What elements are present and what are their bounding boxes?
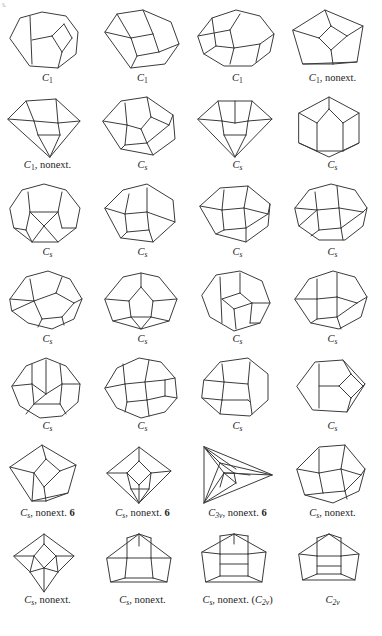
symmetry-group-subscript: s bbox=[50, 424, 53, 433]
inner-edge-9 bbox=[113, 317, 131, 321]
polyhedron-svg-25 bbox=[0, 526, 95, 594]
figure-cell-12: Cs bbox=[285, 178, 380, 265]
figure-caption-20: Cs bbox=[285, 419, 380, 435]
inner-edge-3 bbox=[34, 121, 58, 123]
inner-edge-10 bbox=[246, 214, 268, 228]
inner-edge-8 bbox=[299, 143, 317, 151]
inner-edge-10 bbox=[341, 574, 355, 580]
inner-edge-5 bbox=[337, 297, 357, 303]
inner-edge-4 bbox=[64, 24, 72, 38]
inner-edge-10 bbox=[341, 212, 363, 228]
inner-edge-1 bbox=[103, 121, 127, 125]
figure-cell-14: Cs bbox=[95, 265, 190, 352]
inner-edge-5 bbox=[347, 26, 363, 36]
polyhedron-svg-22 bbox=[95, 439, 190, 507]
polyhedron-svg-10 bbox=[95, 178, 190, 246]
polyhedron-svg-26 bbox=[95, 526, 190, 594]
inner-edge-4 bbox=[56, 277, 62, 293]
inner-edge-9 bbox=[38, 135, 50, 157]
figure-caption-18: Cs bbox=[95, 419, 190, 435]
inner-edge-5 bbox=[60, 465, 76, 471]
inner-edge-11 bbox=[311, 319, 317, 323]
symmetry-group-letter: C bbox=[138, 246, 145, 257]
caption-note: nonext. bbox=[40, 159, 71, 170]
figure-caption-6: Cs bbox=[95, 158, 190, 174]
inner-edge-7 bbox=[139, 473, 151, 485]
inner-edge-5 bbox=[341, 469, 361, 475]
polyhedron-svg-23 bbox=[190, 439, 285, 507]
polyhedron-diagram-11 bbox=[190, 178, 285, 246]
inner-edge-5 bbox=[235, 121, 248, 123]
outer-boundary bbox=[10, 184, 80, 242]
inner-edge-7 bbox=[234, 303, 252, 309]
inner-edge-5 bbox=[339, 208, 363, 212]
inner-edge-6 bbox=[129, 301, 131, 317]
figure-caption-2: C1 bbox=[95, 71, 190, 87]
inner-edge-8 bbox=[319, 228, 341, 230]
polyhedron-diagram-9 bbox=[0, 178, 95, 246]
polyhedron-diagram-26 bbox=[95, 526, 190, 594]
inner-edge-6 bbox=[125, 558, 127, 578]
inner-edge-1 bbox=[12, 384, 32, 386]
figure-cell-16: Cs bbox=[285, 265, 380, 352]
symmetry-group-letter: C bbox=[233, 333, 240, 344]
figure-cell-6: Cs bbox=[95, 91, 190, 178]
inner-edge-4 bbox=[337, 186, 339, 208]
inner-edge-11 bbox=[44, 226, 58, 242]
inner-edge-12 bbox=[341, 228, 343, 240]
inner-edge-13 bbox=[299, 210, 317, 226]
inner-edge-3 bbox=[34, 293, 56, 301]
inner-edge-7 bbox=[256, 44, 260, 62]
symmetry-group-subscript: s bbox=[240, 337, 243, 346]
polyhedron-diagram-16 bbox=[285, 265, 380, 333]
polyhedron-diagram-10 bbox=[95, 178, 190, 246]
figure-caption-14: Cs bbox=[95, 332, 190, 348]
inner-edge-4 bbox=[240, 293, 252, 303]
inner-edge-10 bbox=[345, 475, 361, 491]
inner-edge-2 bbox=[34, 544, 44, 556]
inner-edge-1 bbox=[220, 277, 222, 323]
inner-edge-8 bbox=[147, 212, 149, 230]
inner-edge-7 bbox=[319, 473, 323, 493]
caption-count: 6 bbox=[262, 507, 267, 518]
polyhedron-diagram-23 bbox=[190, 439, 285, 507]
inner-edge-12 bbox=[337, 317, 341, 329]
inner-edge-7 bbox=[317, 210, 319, 230]
caption-note: nonext. bbox=[36, 507, 67, 518]
inner-edge-9 bbox=[56, 556, 58, 572]
inner-edge-2 bbox=[30, 279, 34, 301]
symmetry-group-letter: C bbox=[233, 420, 240, 431]
inner-edge-11 bbox=[32, 473, 34, 501]
inner-edge-1 bbox=[117, 14, 131, 38]
inner-edge-9 bbox=[111, 578, 125, 582]
outer-boundary bbox=[200, 186, 270, 242]
figure-cell-7: Cs bbox=[190, 91, 285, 178]
figure-caption-11: Cs bbox=[190, 245, 285, 261]
figure-cell-13: Cs bbox=[0, 265, 95, 352]
inner-edge-11 bbox=[216, 230, 224, 234]
symmetry-group-subscript: 1 bbox=[144, 76, 148, 85]
inner-edge-12 bbox=[165, 396, 177, 398]
inner-edge-9 bbox=[339, 208, 341, 228]
inner-edge-6 bbox=[165, 378, 175, 380]
figure-cell-5: C1, nonext. bbox=[0, 91, 95, 178]
caption-note: nonext. bbox=[218, 594, 249, 605]
inner-edge-2 bbox=[218, 101, 222, 121]
inner-edge-7 bbox=[169, 115, 173, 125]
inner-edge-6 bbox=[248, 119, 272, 121]
figure-cell-25: Cs, nonext. bbox=[0, 526, 95, 613]
inner-edge-2 bbox=[34, 459, 46, 473]
inner-edge-10 bbox=[32, 226, 44, 242]
polyhedron-diagram-19 bbox=[190, 352, 285, 420]
inner-edge-3 bbox=[230, 30, 234, 48]
inner-edge-9 bbox=[202, 398, 222, 400]
inner-edge-5 bbox=[341, 554, 359, 556]
figure-caption-8: Cs bbox=[285, 158, 380, 174]
inner-edge-2 bbox=[222, 190, 224, 210]
inner-edge-3 bbox=[127, 125, 141, 129]
inner-edge-3 bbox=[317, 208, 339, 210]
figure-cell-4: C1, nonext. bbox=[285, 4, 380, 91]
figure-cell-24: Cs, nonext. bbox=[285, 439, 380, 526]
inner-edge-6 bbox=[125, 214, 127, 232]
inner-edge-11 bbox=[34, 394, 46, 404]
